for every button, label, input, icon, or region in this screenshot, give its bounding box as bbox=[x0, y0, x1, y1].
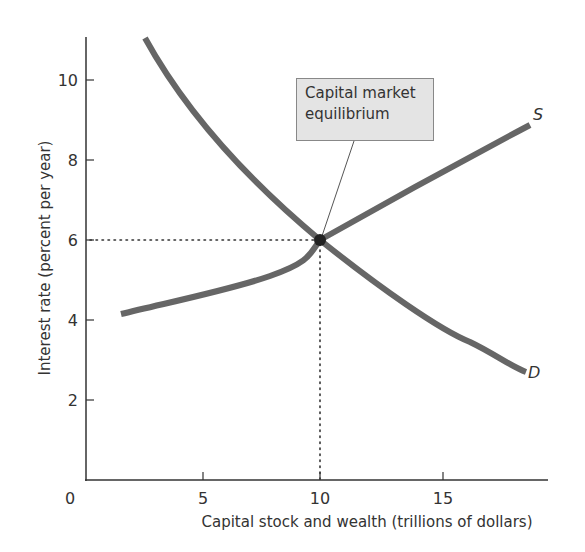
supply-curve bbox=[121, 125, 530, 314]
equilibrium-point bbox=[314, 234, 326, 246]
y-tick-label-4: 4 bbox=[68, 311, 78, 330]
y-tick-label-2: 2 bbox=[68, 391, 78, 410]
y-tick-label-8: 8 bbox=[68, 151, 78, 170]
equilibrium-annotation-box: Capital market equilibrium bbox=[296, 78, 434, 141]
annotation-line-2: equilibrium bbox=[305, 104, 425, 125]
x-tick-label-5: 5 bbox=[198, 489, 208, 508]
y-tick-label-10: 10 bbox=[58, 71, 78, 90]
origin-label: 0 bbox=[65, 489, 75, 508]
x-tick-label-10: 10 bbox=[310, 489, 330, 508]
annotation-line-1: Capital market bbox=[305, 83, 425, 104]
y-axis-title: Interest rate (percent per year) bbox=[36, 141, 54, 376]
x-ticks bbox=[203, 472, 443, 480]
x-tick-label-15: 15 bbox=[433, 489, 453, 508]
demand-label: D bbox=[528, 363, 540, 382]
x-axis-title: Capital stock and wealth (trillions of d… bbox=[201, 513, 532, 531]
supply-label: S bbox=[533, 105, 543, 124]
y-tick-label-6: 6 bbox=[68, 231, 78, 250]
chart-canvas: 10 8 6 4 2 0 5 10 15 Capital stock and w… bbox=[0, 0, 585, 552]
